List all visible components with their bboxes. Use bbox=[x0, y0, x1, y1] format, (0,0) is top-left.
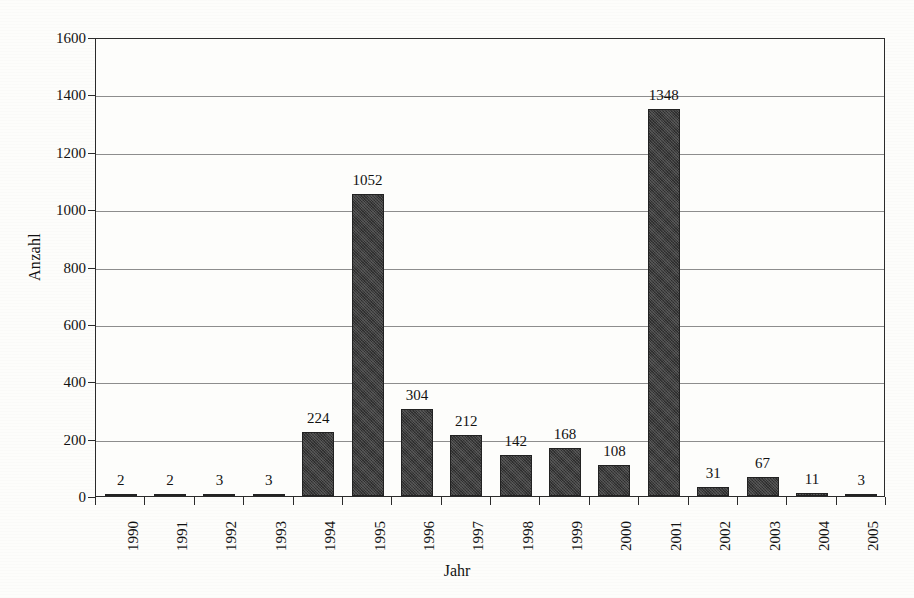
bar-chart-figure: 02004006008001000120014001600 Anzahl 223… bbox=[0, 0, 914, 598]
bar-group: 224 bbox=[294, 39, 343, 496]
x-axis-tick-mark bbox=[836, 497, 837, 505]
x-axis-tick-mark bbox=[638, 497, 639, 505]
x-axis-tick-label: 1995 bbox=[373, 501, 388, 551]
x-axis-tick-labels: 1990199119921993199419951996199719981999… bbox=[95, 505, 885, 555]
x-axis-tick-label: 1999 bbox=[570, 501, 585, 551]
bar-value-label: 142 bbox=[504, 434, 527, 449]
bar[interactable] bbox=[154, 494, 186, 497]
x-axis-tick-label: 1992 bbox=[224, 501, 239, 551]
bar-value-label: 11 bbox=[805, 472, 819, 487]
bar[interactable] bbox=[105, 494, 137, 497]
bar-group: 2 bbox=[96, 39, 145, 496]
bar[interactable] bbox=[500, 455, 532, 496]
x-axis-tick-mark bbox=[391, 497, 392, 505]
bar-group: 67 bbox=[738, 39, 787, 496]
bar-value-label: 2 bbox=[166, 473, 174, 488]
bar-value-label: 224 bbox=[307, 411, 330, 426]
x-axis-tick-label: 2001 bbox=[669, 501, 684, 551]
bar-value-label: 108 bbox=[603, 444, 626, 459]
x-axis-tick-label: 1991 bbox=[175, 501, 190, 551]
bar-group: 3 bbox=[244, 39, 293, 496]
bar-group: 31 bbox=[689, 39, 738, 496]
x-axis-tick-label: 1997 bbox=[471, 501, 486, 551]
bar-group: 2 bbox=[145, 39, 194, 496]
x-axis-tick-label: 1990 bbox=[126, 501, 141, 551]
bar[interactable] bbox=[253, 494, 285, 497]
plot-area: 2233224105230421214216810813483167113 bbox=[95, 38, 885, 497]
x-axis-tick-mark bbox=[539, 497, 540, 505]
bar-value-label: 67 bbox=[755, 456, 770, 471]
bar-group: 212 bbox=[442, 39, 491, 496]
x-axis-tick-label: 2005 bbox=[866, 501, 881, 551]
bar-value-label: 3 bbox=[216, 473, 224, 488]
x-axis-tick-mark bbox=[293, 497, 294, 505]
bar[interactable] bbox=[549, 448, 581, 496]
bar[interactable] bbox=[747, 477, 779, 496]
bar-value-label: 3 bbox=[858, 473, 866, 488]
bar-value-label: 304 bbox=[406, 388, 429, 403]
bar-group: 11 bbox=[787, 39, 836, 496]
bar-group: 108 bbox=[590, 39, 639, 496]
x-axis-tick-mark bbox=[342, 497, 343, 505]
x-axis-tick-mark bbox=[885, 497, 886, 505]
bar-group: 1348 bbox=[639, 39, 688, 496]
bar-group: 168 bbox=[540, 39, 589, 496]
x-axis-tick-mark bbox=[786, 497, 787, 505]
x-axis-tick-label: 1998 bbox=[521, 501, 536, 551]
bar-value-label: 1052 bbox=[353, 173, 383, 188]
x-axis-tick-label: 2002 bbox=[718, 501, 733, 551]
bar-group: 3 bbox=[837, 39, 886, 496]
bar-value-label: 1348 bbox=[649, 88, 679, 103]
bar-value-label: 2 bbox=[117, 473, 125, 488]
x-axis-tick-mark bbox=[144, 497, 145, 505]
bar-value-label: 168 bbox=[554, 427, 577, 442]
bar-value-label: 3 bbox=[265, 473, 273, 488]
bar[interactable] bbox=[401, 409, 433, 496]
x-axis-tick-label: 1994 bbox=[323, 501, 338, 551]
bar[interactable] bbox=[648, 109, 680, 496]
x-axis-tick-mark bbox=[490, 497, 491, 505]
bar[interactable] bbox=[352, 194, 384, 496]
x-axis-tick-label: 1993 bbox=[274, 501, 289, 551]
x-axis-tick-mark bbox=[737, 497, 738, 505]
x-axis-tick-mark bbox=[95, 497, 96, 505]
bar-value-label: 31 bbox=[706, 466, 721, 481]
x-axis-tick-mark bbox=[589, 497, 590, 505]
y-axis-tick-marks bbox=[0, 38, 96, 497]
bar-group: 1052 bbox=[343, 39, 392, 496]
x-axis-title: Jahr bbox=[0, 562, 914, 580]
bar[interactable] bbox=[845, 494, 877, 497]
bar-group: 304 bbox=[392, 39, 441, 496]
x-axis-tick-mark bbox=[688, 497, 689, 505]
x-axis-tick-mark bbox=[243, 497, 244, 505]
x-axis-tick-label: 1996 bbox=[422, 501, 437, 551]
x-axis-tick-label: 2004 bbox=[817, 501, 832, 551]
x-axis-tick-label: 2000 bbox=[619, 501, 634, 551]
bar[interactable] bbox=[302, 432, 334, 496]
bar[interactable] bbox=[697, 487, 729, 496]
bar[interactable] bbox=[796, 493, 828, 496]
x-axis-tick-mark bbox=[194, 497, 195, 505]
bar-group: 142 bbox=[491, 39, 540, 496]
bars-layer: 2233224105230421214216810813483167113 bbox=[96, 39, 884, 496]
y-axis-title: Anzahl bbox=[26, 202, 44, 312]
bar[interactable] bbox=[203, 494, 235, 497]
bar-value-label: 212 bbox=[455, 414, 478, 429]
x-axis-tick-mark bbox=[441, 497, 442, 505]
bar[interactable] bbox=[450, 435, 482, 496]
bar-group: 3 bbox=[195, 39, 244, 496]
bar[interactable] bbox=[598, 465, 630, 496]
x-axis-tick-label: 2003 bbox=[768, 501, 783, 551]
